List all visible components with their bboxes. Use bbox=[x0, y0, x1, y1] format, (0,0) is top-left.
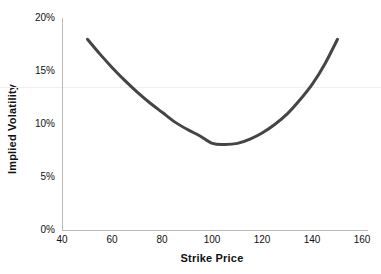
volatility-smile-curve bbox=[88, 39, 338, 144]
plot-area bbox=[0, 0, 381, 274]
implied-volatility-chart: Implied Volatility Strike Price 20% 15% … bbox=[0, 0, 381, 274]
